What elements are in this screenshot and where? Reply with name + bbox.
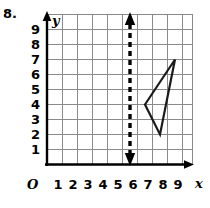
- y-tick-7: 7: [31, 52, 40, 67]
- axes: [45, 18, 188, 166]
- line-of-reflection-arrow-up: [125, 12, 135, 25]
- y-axis-label: y: [51, 13, 61, 28]
- y-tick-8: 8: [31, 37, 40, 52]
- y-tick-1: 1: [31, 142, 40, 157]
- coordinate-graph: y x O 1 2 3 4 5 6 7 8 9 9 8 7 6 5 4 3 2 …: [0, 0, 210, 208]
- x-tick-7: 7: [143, 177, 152, 192]
- y-tick-labels: 9 8 7 6 5 4 3 2 1: [31, 22, 40, 157]
- x-tick-1: 1: [53, 177, 62, 192]
- x-tick-6: 6: [128, 177, 137, 192]
- y-tick-3: 3: [31, 112, 40, 127]
- x-axis-label: x: [194, 176, 203, 191]
- x-tick-8: 8: [158, 177, 167, 192]
- x-tick-4: 4: [98, 177, 107, 192]
- x-tick-5: 5: [113, 177, 122, 192]
- x-tick-9: 9: [173, 177, 182, 192]
- x-tick-2: 2: [68, 177, 77, 192]
- origin-label: O: [27, 177, 39, 192]
- y-tick-2: 2: [31, 127, 40, 142]
- y-tick-4: 4: [31, 97, 40, 112]
- triangle-figure: [145, 60, 175, 135]
- y-tick-9: 9: [31, 22, 40, 37]
- worksheet-problem-panel: 8.: [0, 0, 210, 208]
- x-tick-3: 3: [83, 177, 92, 192]
- y-tick-6: 6: [31, 67, 40, 82]
- grid-lines: [47, 14, 193, 165]
- y-tick-5: 5: [31, 82, 40, 97]
- y-axis-arrowhead: [43, 11, 52, 21]
- x-tick-labels: 1 2 3 4 5 6 7 8 9: [53, 177, 182, 192]
